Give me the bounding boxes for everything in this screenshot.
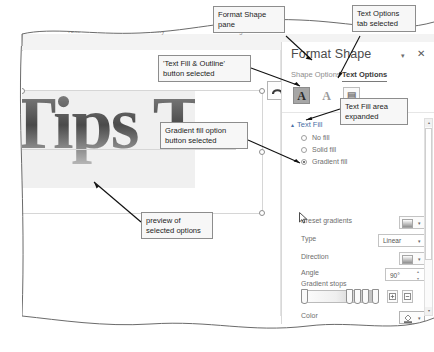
callout-format-shape-pane: Format Shape pane [213, 6, 285, 33]
transparency-slider[interactable] [348, 347, 378, 352]
resize-handle-bottom-right[interactable] [259, 210, 265, 216]
section-header-text-fill[interactable]: ▴Text Fill [291, 120, 322, 129]
label-preset-gradients: Preset gradients [301, 217, 352, 224]
preset-gradient-swatch-icon [402, 219, 413, 228]
color-caret-icon: ▾ [418, 316, 421, 321]
filled-a-icon: A [297, 90, 306, 102]
mouse-cursor-icon [299, 212, 308, 224]
position-value: 0% [390, 333, 399, 340]
gradient-stop-handle[interactable] [354, 289, 361, 304]
selection-midline [22, 149, 236, 150]
label-transparency: Transparency [301, 348, 344, 352]
position-stepper[interactable]: 0% ▴ ▾ [385, 329, 425, 342]
gradient-stop-handle[interactable] [372, 289, 379, 304]
radio-dot-no-fill [301, 135, 307, 141]
resize-handle-middle-right[interactable] [259, 149, 265, 155]
label-position: Position [301, 330, 326, 337]
angle-step-up-icon[interactable]: ▴ [417, 270, 422, 274]
fill-type-radio-group: No fill Solid fill Gradient fill [301, 132, 421, 168]
direction-caret-icon: ▾ [418, 257, 421, 262]
angle-stepper[interactable]: 90° ▴ ▾ [385, 268, 425, 281]
remove-gradient-stop-button[interactable] [402, 290, 413, 303]
resize-handle-top-right[interactable] [259, 88, 265, 94]
callout-text-options-tab: Text Options tab selected [352, 5, 416, 32]
type-caret-icon: ▾ [418, 239, 421, 244]
label-direction: Direction [301, 253, 329, 260]
direction-button[interactable]: ▾ [399, 252, 425, 265]
gradient-stop-handle[interactable] [362, 289, 369, 304]
outline-a-icon: A [322, 90, 331, 102]
type-dropdown[interactable]: Linear ▾ [378, 234, 425, 247]
pane-tabs: Shape Options Text Options [291, 70, 421, 83]
label-gradient-stops: Gradient stops [301, 280, 347, 287]
radio-dot-solid-fill [301, 147, 307, 153]
pane-scrollbar[interactable]: ▴ ▾ [424, 118, 433, 316]
callout-gradient-fill-option: Gradient fill option button selected [160, 122, 248, 149]
row-direction: Direction ▾ [291, 252, 427, 266]
radio-label-gradient-fill: Gradient fill [312, 158, 347, 165]
row-preset-gradients: Preset gradients ▾ [291, 216, 427, 230]
direction-swatch-icon [402, 255, 413, 264]
label-angle: Angle [301, 269, 319, 276]
radio-dot-gradient-fill [301, 159, 307, 165]
scroll-up-icon[interactable]: ▴ [425, 119, 432, 127]
pane-title: Format Shape [291, 47, 371, 61]
callout-text-fill-area-expanded: Text Fill area expanded [340, 98, 408, 125]
radio-solid-fill[interactable]: Solid fill [301, 144, 421, 156]
radio-label-solid-fill: Solid fill [312, 146, 336, 153]
transparency-stepper[interactable]: 0% ▴ ▾ [385, 347, 425, 352]
position-stepper-arrows[interactable]: ▴ ▾ [417, 331, 422, 342]
preset-gradients-caret-icon: ▾ [418, 221, 421, 226]
format-shape-pane: Format Shape ▾ ✕ Shape Options Text Opti… [281, 42, 434, 324]
text-effects-button[interactable]: A [318, 87, 335, 104]
resize-handle-top-left[interactable] [19, 88, 25, 94]
callout-text-fill-outline-button: 'Text Fill & Outline' button selected [158, 55, 251, 82]
radio-gradient-fill[interactable]: Gradient fill [301, 156, 421, 168]
ribbon-group-text: Text [67, 27, 80, 34]
angle-stepper-arrows[interactable]: ▴ ▾ [417, 270, 422, 281]
pane-close-icon[interactable]: ✕ [417, 48, 425, 60]
screenshot-root: Text Accessibility Arrange Tips T Tips T… [0, 0, 434, 352]
radio-label-no-fill: No fill [312, 134, 330, 141]
gradient-stops-bar[interactable] [301, 290, 379, 303]
pane-scrollbar-thumb[interactable] [425, 128, 432, 260]
callout-preview-of-selected-options: preview of selected options [141, 212, 213, 239]
ribbon-group-accessibility: Accessibility [127, 27, 165, 34]
tab-shape-options[interactable]: Shape Options [291, 70, 341, 79]
text-fill-and-outline-button[interactable]: A [293, 87, 310, 104]
row-position: Position 0% ▴ ▾ [291, 329, 427, 343]
label-type: Type [301, 235, 316, 242]
row-type: Type Linear ▾ [291, 234, 427, 248]
expand-caret-icon: ▴ [291, 121, 294, 128]
wordart-selection-box[interactable]: Tips T Tips T [21, 90, 263, 214]
angle-step-down-icon[interactable]: ▾ [417, 277, 422, 281]
scroll-down-icon[interactable]: ▾ [425, 307, 432, 315]
row-color: Color ▾ [291, 311, 427, 325]
preset-gradients-button[interactable]: ▾ [399, 216, 425, 229]
pane-options-chevron-icon[interactable]: ▾ [401, 52, 405, 60]
angle-value: 90° [390, 272, 400, 279]
add-gradient-stop-button[interactable] [387, 290, 398, 303]
slide-canvas[interactable]: Tips T Tips T [23, 50, 281, 316]
color-button[interactable]: ▾ [399, 311, 425, 324]
row-transparency: Transparency 0% ▴ ▾ [291, 347, 427, 352]
label-color: Color [301, 312, 318, 319]
gradient-stop-handle[interactable] [346, 289, 353, 304]
position-step-up-icon[interactable]: ▴ [417, 331, 422, 335]
position-step-down-icon[interactable]: ▾ [417, 338, 422, 342]
paint-bucket-icon [403, 314, 413, 323]
type-value: Linear [383, 237, 401, 244]
section-title-text-fill: Text Fill [297, 120, 322, 129]
tab-text-options[interactable]: Text Options [342, 70, 387, 79]
gradient-stop-handle[interactable] [301, 289, 308, 304]
radio-no-fill[interactable]: No fill [301, 132, 421, 144]
